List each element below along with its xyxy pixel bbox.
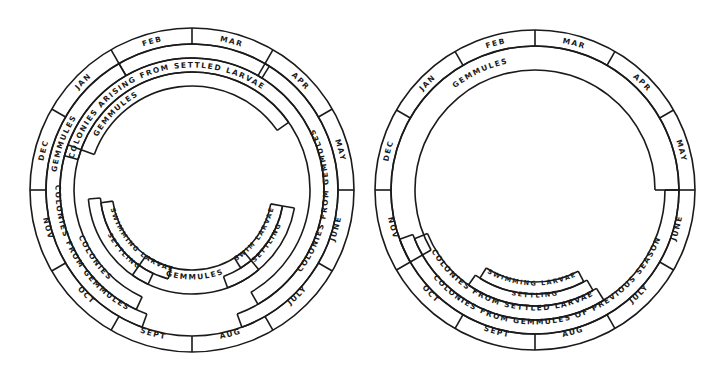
month-ring-outer (375, 30, 695, 350)
month-ring-outer (30, 28, 354, 352)
month-label-jan: JAN (72, 71, 93, 92)
month-divider (607, 51, 615, 65)
life-stage-band: COLONIES FROM GEMMULES (237, 64, 338, 328)
month-label-jan: JAN (417, 72, 438, 93)
month-divider (607, 315, 615, 329)
month-divider (660, 262, 674, 270)
month-label-apr: APR (631, 72, 653, 94)
month-label-aug: AUG (219, 326, 243, 340)
band-label: GEMMULES (451, 56, 509, 89)
sponge-life-cycle-diagrams: JANFEBMARAPRMAYJUNEJULYAUGSEPTOCTNOVDECG… (0, 0, 723, 375)
right-cycle-diagram: JANFEBMARAPRMAYJUNEJULYAUGSEPTOCTNOVDECG… (375, 30, 695, 350)
life-stage-band: SWIM LARVAE (227, 197, 283, 268)
month-divider (455, 315, 463, 329)
month-label-feb: FEB (484, 36, 506, 50)
left-cycle-diagram: JANFEBMARAPRMAYJUNEJULYAUGSEPTOCTNOVDECG… (30, 28, 354, 352)
month-divider (660, 110, 674, 118)
month-divider (265, 316, 273, 330)
life-stage-band: SWIMMING LARVAE (101, 197, 185, 279)
month-divider (396, 110, 410, 118)
month-divider (455, 51, 463, 65)
month-label-dec: DEC (381, 139, 395, 162)
band-label: GEMMULES (165, 267, 225, 282)
band-label: COLONIES (77, 234, 115, 283)
month-label-dec: DEC (36, 138, 50, 161)
month-label-apr: APR (290, 70, 312, 92)
month-divider (111, 50, 119, 64)
life-stage-band: SWIMMING LARVAE (477, 266, 588, 294)
life-stage-band: COLONIES FROM SETTLED LARVAE (414, 228, 614, 320)
life-stage-band: COLONIES (60, 145, 142, 310)
band-label: SWIMMING LARVAE (486, 267, 578, 287)
month-divider (318, 263, 332, 271)
life-stage-band: SETTLING (223, 206, 294, 288)
band-label: SWIM LARVAE (233, 206, 276, 263)
month-divider (52, 263, 66, 271)
month-divider (265, 50, 273, 64)
month-divider (318, 109, 332, 117)
month-label-sept: SEPT (139, 326, 167, 342)
month-divider (111, 316, 119, 330)
month-divider (52, 109, 66, 117)
month-label-feb: FEB (141, 34, 163, 48)
month-divider (396, 262, 410, 270)
month-label-july: JULY (285, 284, 309, 308)
